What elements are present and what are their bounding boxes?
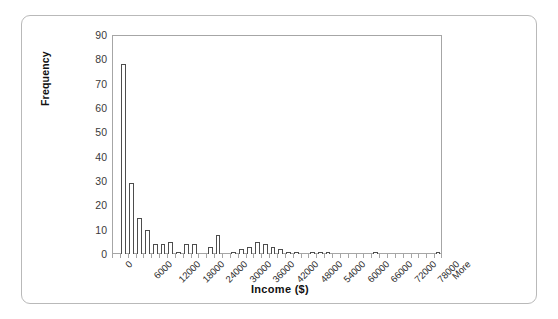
x-axis-tick	[238, 254, 239, 258]
x-tick-label: 54000	[342, 259, 367, 284]
x-axis-tick	[285, 254, 286, 258]
x-axis-ticks	[112, 254, 442, 258]
y-tick-label: 80	[95, 54, 107, 65]
x-tick-label: 66000	[389, 259, 414, 284]
histogram-bar	[255, 242, 260, 254]
histogram-bar	[192, 244, 197, 254]
histogram-bar	[184, 244, 189, 254]
x-axis-tick	[316, 254, 317, 258]
x-tick-label: 0	[123, 259, 133, 269]
histogram-bar	[263, 244, 268, 254]
x-axis-tick	[403, 254, 404, 258]
x-axis-tick	[175, 254, 176, 258]
y-tick-label: 0	[101, 249, 107, 260]
histogram-bar	[247, 247, 252, 254]
x-axis-tick	[128, 254, 129, 258]
x-axis-tick	[379, 254, 380, 258]
x-axis-tick	[191, 254, 192, 258]
x-axis-tick	[293, 254, 294, 258]
y-tick-label: 90	[95, 30, 107, 41]
y-tick-label: 40	[95, 151, 107, 162]
histogram-bar	[216, 235, 221, 254]
x-axis-tick	[411, 254, 412, 258]
y-tick-label: 20	[95, 200, 107, 211]
histogram-bar	[161, 244, 166, 254]
x-axis-tick	[426, 254, 427, 258]
y-tick-label: 50	[95, 127, 107, 138]
x-axis-tick	[151, 254, 152, 258]
y-axis-tick-labels: 9080706050403020100	[74, 35, 107, 254]
x-axis-title: Income ($)	[22, 283, 538, 295]
x-axis-tick	[120, 254, 121, 258]
x-tick-label: 30000	[248, 259, 273, 284]
x-axis-tick	[253, 254, 254, 258]
y-tick-label: 30	[95, 176, 107, 187]
x-tick-label: 36000	[271, 259, 296, 284]
x-axis-tick	[441, 254, 442, 258]
x-axis-tick	[112, 254, 113, 258]
x-axis-tick	[269, 254, 270, 258]
x-axis-tick	[387, 254, 388, 258]
histogram-bar	[153, 244, 158, 254]
histogram-bar	[121, 64, 126, 254]
x-axis-tick	[363, 254, 364, 258]
x-axis-tick	[198, 254, 199, 258]
x-axis-tick	[277, 254, 278, 258]
x-axis-tick	[434, 254, 435, 258]
x-tick-label: 72000	[413, 259, 438, 284]
histogram-bar	[145, 230, 150, 254]
histogram-bar	[271, 247, 276, 254]
figure-outer-frame: Frequency 9080706050403020100 0600012000…	[21, 15, 537, 304]
x-axis-tick	[246, 254, 247, 258]
x-axis-tick	[230, 254, 231, 258]
x-tick-label: 6000	[152, 259, 174, 281]
x-axis-tick	[301, 254, 302, 258]
x-axis-tick	[324, 254, 325, 258]
histogram-bar	[137, 218, 142, 255]
histogram-bar	[208, 247, 213, 254]
x-tick-label: 42000	[295, 259, 320, 284]
x-axis-tick	[356, 254, 357, 258]
x-axis-tick	[418, 254, 419, 258]
histogram-bar	[129, 183, 134, 254]
x-axis-tick-labels: 0600012000180002400030000360004200048000…	[112, 259, 452, 305]
histogram-chart: Frequency 9080706050403020100 0600012000…	[22, 16, 538, 305]
x-axis-tick	[332, 254, 333, 258]
x-axis-tick	[183, 254, 184, 258]
x-axis-tick	[261, 254, 262, 258]
x-axis-tick	[167, 254, 168, 258]
x-tick-label: 60000	[365, 259, 390, 284]
x-axis-tick	[222, 254, 223, 258]
bars-layer	[112, 35, 442, 254]
y-tick-label: 70	[95, 78, 107, 89]
x-axis-tick	[308, 254, 309, 258]
x-axis-tick	[143, 254, 144, 258]
x-axis-tick	[136, 254, 137, 258]
x-axis-tick	[159, 254, 160, 258]
x-axis-tick	[371, 254, 372, 258]
histogram-bar	[168, 242, 173, 254]
y-tick-label: 10	[95, 224, 107, 235]
x-tick-label: 12000	[177, 259, 202, 284]
x-axis-tick	[206, 254, 207, 258]
x-tick-label: 18000	[200, 259, 225, 284]
x-axis-tick	[214, 254, 215, 258]
y-axis-title: Frequency	[39, 51, 51, 106]
x-tick-label: 24000	[224, 259, 249, 284]
x-axis-tick	[340, 254, 341, 258]
x-tick-label: 48000	[318, 259, 343, 284]
x-axis-tick	[348, 254, 349, 258]
y-tick-label: 60	[95, 103, 107, 114]
x-axis-tick	[395, 254, 396, 258]
